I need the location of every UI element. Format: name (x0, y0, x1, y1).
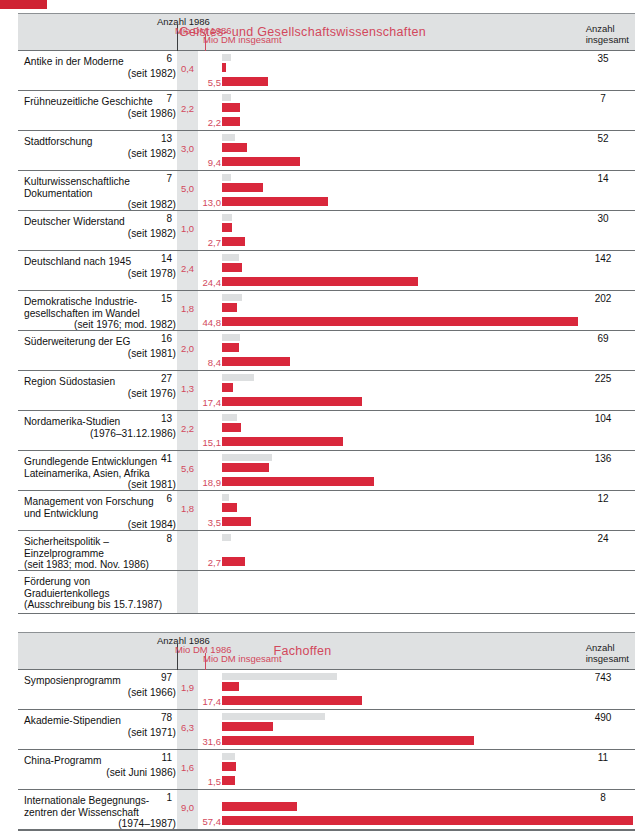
row-mio-insgesamt: 24,4 (193, 277, 221, 288)
row-total-count: 136 (575, 453, 631, 464)
section-title-text: Fachoffen (273, 644, 331, 658)
row-total-count: 8 (575, 792, 631, 803)
header-anzahl-insgesamt: Anzahlinsgesamt (586, 643, 629, 664)
bar-anzahl-1986 (222, 713, 325, 720)
row-mio-1986: 1,6 (178, 762, 197, 773)
bar-mio-insgesamt (222, 317, 578, 326)
row-count-1986: 8 (138, 213, 172, 224)
row-mio-insgesamt: 9,4 (193, 157, 221, 168)
bar-mio-1986 (222, 383, 233, 392)
row-mio-insgesamt: 17,4 (193, 397, 221, 408)
table-row: Nordamerika-Studien(1976–31.12.1986)132,… (18, 411, 635, 451)
row-mio-1986: 0,4 (178, 63, 197, 74)
row-mio-1986: 5,6 (178, 463, 197, 474)
section-gap (18, 614, 635, 632)
row-since: (1974–1987) (24, 818, 176, 830)
table-row: Deutschland nach 1945(seit 1978)142,424,… (18, 251, 635, 291)
bar-mio-insgesamt (222, 816, 633, 825)
table-row: Internationale Begegnungs-zentren der Wi… (18, 790, 635, 830)
row-total-count: 142 (575, 253, 631, 264)
bar-anzahl-1986 (222, 673, 337, 680)
row-since: (1976–31.12.1986) (24, 428, 176, 440)
row-count-1986: 16 (138, 333, 172, 344)
table-row: Süderweiterung der EG(seit 1981)162,08,4… (18, 331, 635, 371)
row-mio-1986: 2,2 (178, 423, 197, 434)
header-anzahl-line1: Anzahl (586, 643, 629, 654)
row-since: (seit 1982) (24, 148, 176, 160)
header-anzahl-line2: insgesamt (586, 35, 629, 46)
bar-anzahl-1986 (222, 494, 229, 501)
row-count-1986: 1 (138, 792, 172, 803)
bar-mio-insgesamt (222, 197, 328, 206)
bar-mio-insgesamt (222, 557, 245, 566)
section-title: Geistes- und Gesellschaftswissenschaften (18, 25, 635, 39)
bar-anzahl-1986 (222, 334, 240, 341)
bar-mio-insgesamt (222, 437, 343, 446)
sheet-footer-rule (18, 830, 635, 835)
table-row: Grundlegende EntwicklungenLateinamerika,… (18, 451, 635, 491)
bar-anzahl-1986 (222, 214, 232, 221)
row-total-count: 52 (575, 133, 631, 144)
table-row: Sicherheitspolitik –Einzelprogramme(seit… (18, 531, 635, 571)
bar-mio-insgesamt (222, 736, 474, 745)
row-total-count: 743 (575, 672, 631, 683)
bar-anzahl-1986 (222, 134, 235, 141)
row-total-count: 11 (575, 752, 631, 763)
bar-mio-1986 (222, 682, 239, 691)
bar-mio-1986 (222, 183, 263, 192)
row-total-count: 104 (575, 413, 631, 424)
row-label: Förderung vonGraduiertenkollegs(Ausschre… (24, 576, 176, 611)
bar-mio-insgesamt (222, 77, 268, 86)
row-mio-insgesamt: 44,8 (193, 317, 221, 328)
row-mio-1986: 1,9 (178, 682, 197, 693)
row-mio-1986: 1,8 (178, 503, 197, 514)
row-total-count: 12 (575, 493, 631, 504)
row-since: (seit 1981) (24, 479, 176, 491)
bar-anzahl-1986 (222, 294, 242, 301)
row-total-count: 202 (575, 293, 631, 304)
row-since: (seit 1976) (24, 388, 176, 400)
bar-anzahl-1986 (222, 54, 231, 61)
bar-mio-1986 (222, 463, 269, 472)
row-since: (seit 1981) (24, 348, 176, 360)
bar-mio-insgesamt (222, 696, 362, 705)
row-mio-1986: 2,4 (178, 263, 197, 274)
row-count-1986: 11 (138, 752, 172, 763)
bar-mio-1986 (222, 103, 240, 112)
row-mio-insgesamt: 18,9 (193, 477, 221, 488)
bar-mio-insgesamt (222, 277, 418, 286)
bar-mio-1986 (222, 223, 232, 232)
row-mio-insgesamt: 17,4 (193, 696, 221, 707)
row-mio-insgesamt: 31,6 (193, 736, 221, 747)
row-mio-insgesamt: 8,4 (193, 357, 221, 368)
row-count-1986: 97 (138, 672, 172, 683)
row-since: (seit 1983; mod. Nov. 1986) (24, 559, 176, 571)
row-count-1986: 13 (138, 133, 172, 144)
bar-anzahl-1986 (222, 174, 231, 181)
bar-anzahl-1986 (222, 454, 272, 461)
row-since: (seit 1982) (24, 199, 176, 211)
row-count-1986: 27 (138, 373, 172, 384)
row-mio-insgesamt: 57,4 (193, 816, 221, 827)
row-total-count: 30 (575, 213, 631, 224)
row-total-count: 7 (575, 93, 631, 104)
header-anzahl-line1: Anzahl (586, 24, 629, 35)
row-mio-insgesamt: 2,7 (193, 557, 221, 568)
bar-mio-insgesamt (222, 157, 300, 166)
table-row: China-Programm(seit Juni 1986)111,61,511 (18, 750, 635, 790)
bar-mio-insgesamt (222, 397, 362, 406)
row-mio-1986: 5,0 (178, 183, 197, 194)
row-mio-insgesamt: 2,7 (193, 237, 221, 248)
row-mio-1986: 2,2 (178, 103, 197, 114)
row-mio-1986: 1,0 (178, 223, 197, 234)
header-anzahl-line2: insgesamt (586, 654, 629, 665)
bar-mio-1986 (222, 762, 236, 771)
row-since: (seit 1982) (24, 228, 176, 240)
table-row: Demokratische Industrie-gesellschaften i… (18, 291, 635, 331)
table-row: Management von Forschungund Entwicklung(… (18, 491, 635, 531)
section-header-0: Anzahl 1986Mio DM 1986Mio DM insgesamtGe… (18, 13, 635, 51)
row-mio-1986: 1,3 (178, 383, 197, 394)
row-mio-1986: 3,0 (178, 143, 197, 154)
row-since: (seit 1978) (24, 268, 176, 280)
